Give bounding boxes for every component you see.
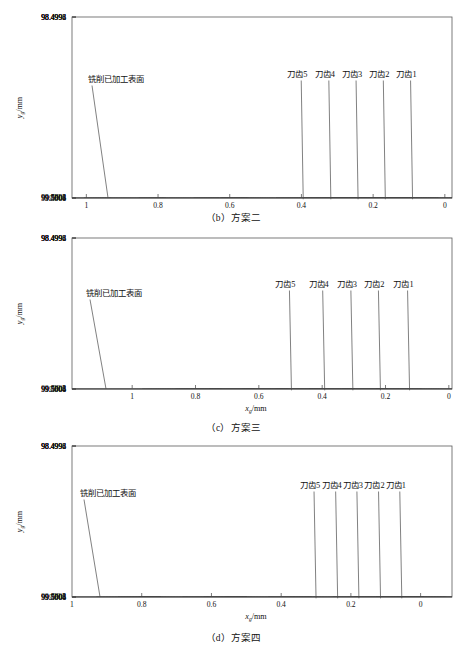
- tooth-label: 刀齿1: [396, 70, 416, 79]
- chart-c: 98.499298.499498.499698.499899.599.50029…: [0, 224, 467, 422]
- svg-text:yg/mm: yg/mm: [15, 510, 25, 533]
- panel-d: 98.499298.499498.499698.499899.599.50029…: [0, 434, 467, 644]
- tooth-label: 刀齿1: [393, 280, 413, 289]
- tooth-leader: [314, 492, 316, 599]
- x-tick-label: 0.2: [381, 392, 391, 401]
- x-tick-label: 0: [419, 600, 423, 609]
- machined-surface-label: 铣削已加工表面: [86, 288, 142, 298]
- tooth-leader: [408, 291, 410, 391]
- x-tick-label: 0.8: [137, 600, 147, 609]
- y-axis-title: yg/mm: [15, 510, 25, 533]
- x-tick-label: 0: [447, 392, 451, 401]
- tooth-label: 刀齿3: [342, 70, 362, 79]
- tooth-leader: [289, 291, 291, 391]
- caption-b: （b）方案二: [0, 212, 467, 224]
- y-axis-title: yg/mm: [15, 96, 25, 119]
- y-tick-label: 99.501: [45, 194, 66, 203]
- machined-surface-label: 铣削已加工表面: [88, 74, 144, 84]
- x-tick-label: 1: [84, 201, 88, 210]
- panel-b: 98.499298.499498.499698.499899.599.50029…: [0, 0, 467, 224]
- tooth-label: 刀齿1: [386, 481, 406, 490]
- figure-root: 98.499298.499498.499698.499899.599.50029…: [0, 0, 467, 659]
- machined-surface-leader: [90, 300, 106, 389]
- tooth-leader: [301, 81, 303, 200]
- x-tick-label: 0.2: [346, 600, 356, 609]
- x-tick-label: 0.4: [276, 600, 286, 609]
- caption-c: （c）方案三: [0, 422, 467, 434]
- chart-b: 98.499298.499498.499698.499899.599.50029…: [0, 0, 467, 212]
- tooth-label: 刀齿5: [300, 481, 320, 490]
- tooth-label: 刀齿3: [337, 280, 357, 289]
- tooth-leader: [411, 81, 413, 200]
- tooth-leader: [356, 81, 358, 200]
- tooth-label: 刀齿4: [322, 481, 343, 490]
- tooth-leader: [379, 492, 381, 599]
- tooth-label: 刀齿5: [275, 280, 295, 289]
- tooth-label: 刀齿2: [369, 70, 389, 79]
- plot-frame: [72, 446, 452, 597]
- tooth-leader: [351, 291, 353, 391]
- x-tick-label: 0.8: [191, 392, 201, 401]
- x-tick-label: 0.6: [254, 392, 264, 401]
- tooth-leader: [357, 492, 359, 599]
- x-tick-label: 0.6: [225, 201, 235, 210]
- machined-surface-leader: [84, 500, 100, 597]
- x-tick-label: 0.4: [317, 392, 327, 401]
- tooth-leader: [323, 291, 325, 391]
- svg-text:yg/mm: yg/mm: [15, 302, 25, 325]
- x-tick-label: 0.4: [297, 201, 307, 210]
- tooth-label: 刀齿2: [364, 280, 384, 289]
- caption-d: （d）方案四: [0, 632, 467, 644]
- plot-frame: [72, 17, 452, 198]
- y-tick-label: 98.4998: [41, 234, 66, 243]
- x-tick-label: 0.2: [368, 201, 378, 210]
- y-tick-label: 99.501: [45, 593, 66, 602]
- x-axis-title: xg/mm: [244, 612, 267, 622]
- y-tick-label: 99.501: [45, 385, 66, 394]
- x-tick-label: 0.6: [207, 600, 217, 609]
- panel-c: 98.499298.499498.499698.499899.599.50029…: [0, 224, 467, 434]
- x-tick-label: 0.8: [153, 201, 163, 210]
- x-tick-label: 1: [130, 392, 134, 401]
- tooth-label: 刀齿4: [309, 280, 330, 289]
- tooth-leader: [378, 291, 380, 391]
- tooth-label: 刀齿2: [364, 481, 384, 490]
- tooth-leader: [400, 492, 402, 599]
- y-tick-label: 98.4998: [41, 13, 66, 22]
- machined-surface-label: 铣削已加工表面: [80, 488, 136, 498]
- tooth-leader: [329, 81, 331, 200]
- chart-d: 98.499298.499498.499698.499899.599.50029…: [0, 434, 467, 632]
- x-axis-title: xg/mm: [244, 404, 267, 414]
- y-axis-title: yg/mm: [15, 302, 25, 325]
- x-tick-label: 1: [70, 600, 74, 609]
- svg-text:yg/mm: yg/mm: [15, 96, 25, 119]
- tooth-label: 刀齿3: [343, 481, 363, 490]
- y-tick-label: 98.4998: [41, 442, 66, 451]
- x-tick-label: 0: [443, 201, 447, 210]
- machined-surface-leader: [92, 86, 108, 198]
- plot-frame: [72, 238, 452, 389]
- tooth-label: 刀齿4: [315, 70, 336, 79]
- tooth-leader: [383, 81, 385, 200]
- tooth-label: 刀齿5: [287, 70, 307, 79]
- tooth-leader: [336, 492, 338, 599]
